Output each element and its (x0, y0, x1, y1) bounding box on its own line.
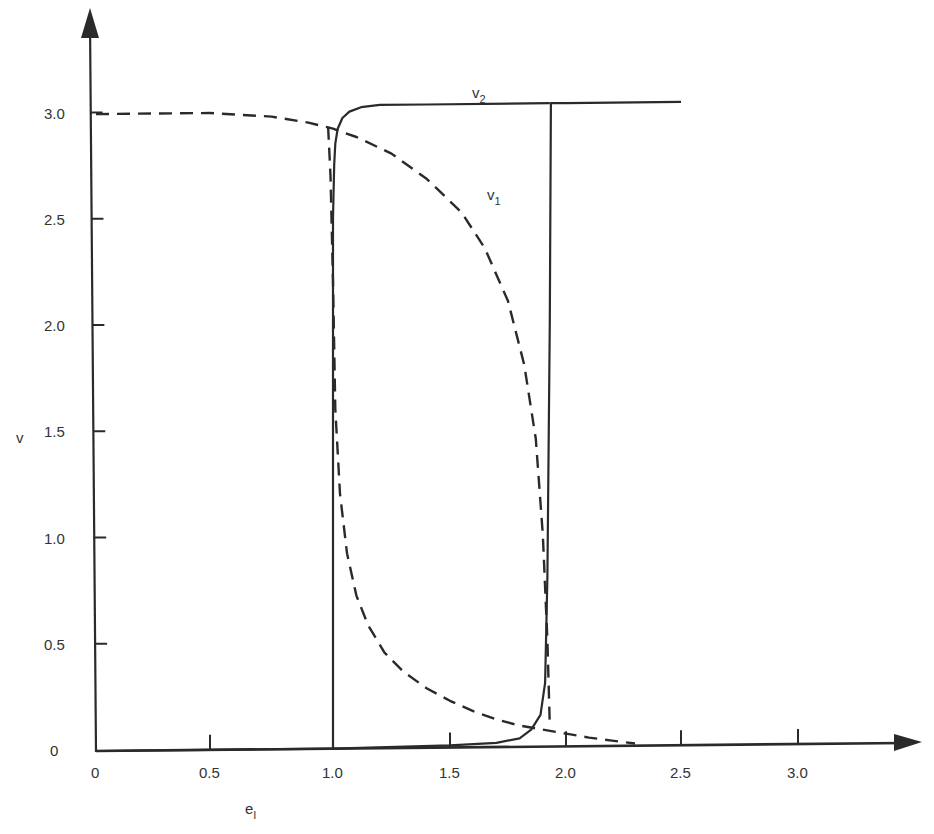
x-tick-label: 2.0 (555, 764, 576, 781)
y-tick-label: 0.5 (44, 636, 65, 653)
y-tick-label: 1.0 (44, 530, 65, 547)
x-tick-label: 1.5 (439, 764, 460, 781)
y-tick-label: 1.5 (44, 423, 65, 440)
y-axis-label: v (16, 429, 24, 446)
x-tick-label: 0.5 (199, 764, 220, 781)
x-axis-label: eI (245, 800, 256, 821)
series-v1-line (96, 113, 550, 725)
series-v2-line (333, 103, 550, 749)
series-layer (96, 102, 681, 751)
x-tick-label: 0 (91, 764, 99, 781)
y-tick-label: 0 (50, 742, 58, 759)
x-tick-label: 2.5 (670, 764, 691, 781)
x-ticks: 00.51.01.52.02.53.0 (91, 729, 808, 781)
y-axis (81, 8, 99, 752)
y-tick-label: 3.0 (44, 105, 65, 122)
series-v2-line (96, 102, 681, 751)
x-axis-arrow-icon (894, 734, 922, 751)
series-label-v1: v1 (487, 186, 501, 207)
series-label-v2: v2 (472, 84, 486, 105)
y-ticks: 00.51.01.52.02.53.0 (44, 105, 107, 760)
chart: 00.51.01.52.02.53.0 00.51.01.52.02.53.0 … (0, 0, 934, 834)
x-tick-label: 1.0 (322, 764, 343, 781)
x-tick-label: 3.0 (787, 764, 808, 781)
y-tick-label: 2.5 (44, 211, 65, 228)
y-tick-label: 2.0 (44, 317, 65, 334)
series-v1-line (328, 127, 635, 744)
y-axis-arrow-icon (81, 8, 99, 38)
